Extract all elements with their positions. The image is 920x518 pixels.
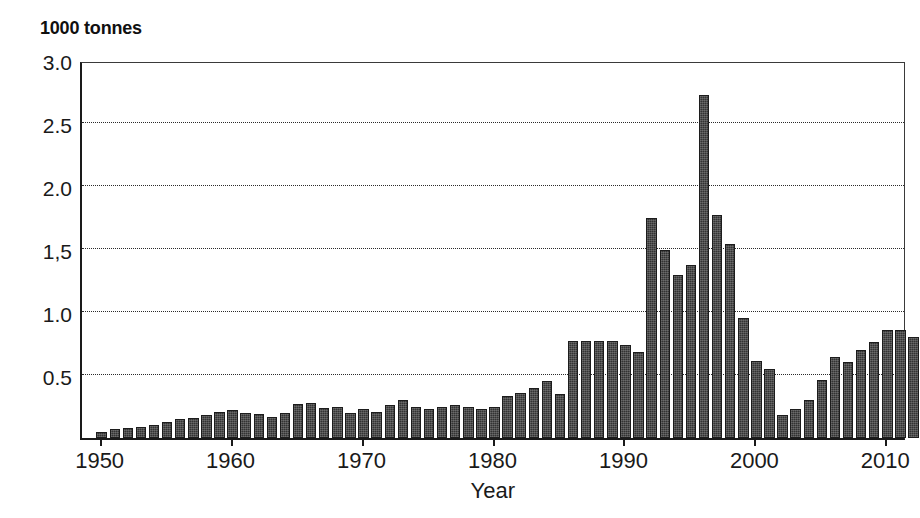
bar [96, 432, 106, 438]
bar [804, 400, 814, 438]
bar [319, 408, 329, 438]
bar [895, 330, 905, 438]
bar [358, 409, 368, 438]
bar [908, 337, 918, 438]
bar [175, 419, 185, 438]
bar [136, 427, 146, 438]
bar [123, 428, 133, 438]
plot-area [80, 62, 905, 440]
bar [227, 410, 237, 438]
y-axis-tick-label: 1,5 [28, 241, 72, 262]
x-axis-tick-marks [80, 440, 905, 448]
x-axis-tick-mark [493, 440, 495, 446]
bar [345, 413, 355, 438]
x-axis-tick-mark [362, 440, 364, 446]
x-axis-tick-label: 2000 [714, 448, 794, 474]
bar [424, 409, 434, 438]
x-axis-tick-mark [100, 440, 102, 446]
bar [450, 405, 460, 438]
bar [843, 362, 853, 438]
bar [254, 414, 264, 438]
bar [398, 400, 408, 438]
x-axis-tick-label: 1950 [60, 448, 140, 474]
bar [489, 407, 499, 439]
bar [882, 330, 892, 438]
bar [594, 341, 604, 438]
bar [476, 409, 486, 438]
bar [267, 417, 277, 438]
bar [764, 369, 774, 438]
y-axis-tick-label: 2.5 [28, 115, 72, 136]
bar [214, 412, 224, 438]
bar [790, 409, 800, 438]
y-axis-tick-label: 0.5 [28, 367, 72, 388]
bar [777, 415, 787, 438]
x-axis-tick-labels: 1950196019701980199020002010 [80, 448, 905, 478]
bar [371, 412, 381, 438]
bar [529, 388, 539, 438]
y-axis-tick-labels: 3.02.52.01,51.00.5 [20, 62, 72, 440]
bar [332, 407, 342, 439]
bar [830, 357, 840, 438]
bar-chart-figure: 1000 tonnes 3.02.52.01,51.00.5 195019601… [0, 0, 920, 518]
bar [240, 413, 250, 438]
bar [280, 413, 290, 438]
bar [607, 341, 617, 438]
bar [385, 405, 395, 438]
y-axis-unit-title: 1000 tonnes [40, 18, 142, 39]
x-axis-tick-mark [623, 440, 625, 446]
bar [306, 403, 316, 438]
bar [633, 352, 643, 438]
bar [751, 361, 761, 438]
x-axis-tick-label: 2010 [845, 448, 920, 474]
bar [162, 422, 172, 438]
x-axis-tick-mark [231, 440, 233, 446]
bar [738, 318, 748, 438]
x-axis-tick-label: 1980 [453, 448, 533, 474]
bar [542, 381, 552, 438]
x-axis-tick-mark [754, 440, 756, 446]
bar [293, 404, 303, 438]
y-axis-tick-label: 1.0 [28, 304, 72, 325]
bar [411, 407, 421, 439]
bar [201, 415, 211, 438]
bar [725, 244, 735, 438]
bar [188, 418, 198, 438]
bar [699, 95, 709, 438]
y-axis-tick-label: 2.0 [28, 178, 72, 199]
y-axis-tick-label: 3.0 [28, 52, 72, 73]
bar [620, 345, 630, 438]
bar [646, 218, 656, 439]
x-axis-tick-label: 1970 [322, 448, 402, 474]
x-axis-title: Year [471, 478, 515, 504]
bar [502, 396, 512, 438]
bar [817, 380, 827, 438]
x-axis-tick-mark [885, 440, 887, 446]
bar [712, 215, 722, 438]
bar [581, 341, 591, 438]
bar [856, 350, 866, 438]
bar [568, 341, 578, 438]
bar [437, 407, 447, 439]
bar [149, 425, 159, 438]
bar [463, 407, 473, 439]
bar [686, 265, 696, 438]
bar [673, 275, 683, 438]
bar [555, 394, 565, 438]
bar [110, 429, 120, 438]
x-axis-tick-label: 1960 [191, 448, 271, 474]
bar [869, 342, 879, 438]
bar [660, 250, 670, 438]
bar-series [82, 63, 904, 438]
bar [515, 393, 525, 438]
x-axis-tick-label: 1990 [583, 448, 663, 474]
